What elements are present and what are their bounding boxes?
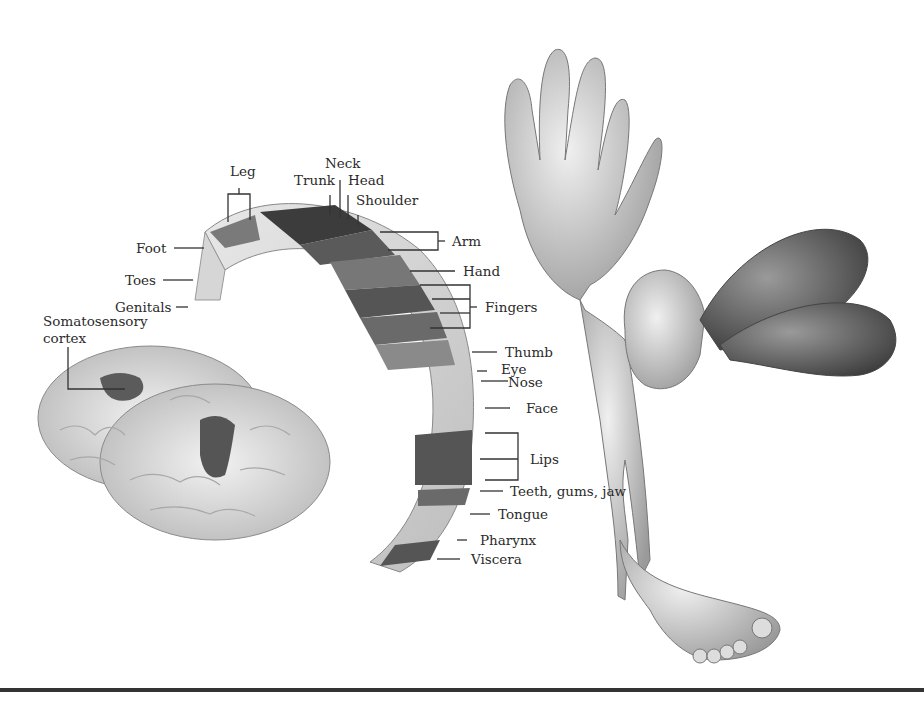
label-toes: Toes — [125, 273, 156, 288]
label-somatosensory: Somatosensory — [43, 314, 148, 329]
label-leg: Leg — [230, 164, 256, 179]
label-lips: Lips — [530, 452, 559, 467]
label-face: Face — [526, 401, 558, 416]
label-hand: Hand — [463, 264, 500, 279]
label-arm: Arm — [452, 234, 481, 249]
bottom-rule — [0, 688, 924, 692]
label-tongue: Tongue — [498, 507, 548, 522]
label-thumb: Thumb — [505, 345, 553, 360]
homunculus-hand — [505, 49, 662, 300]
label-neck: Neck — [325, 156, 361, 171]
homunculus-figure: Leg Neck Trunk Head Shoulder Foot Toes G… — [0, 0, 924, 712]
label-foot: Foot — [136, 241, 166, 256]
homunculus-lips — [700, 229, 896, 376]
label-viscera: Viscera — [471, 552, 522, 567]
diagram-graphics — [0, 0, 924, 712]
label-pharynx: Pharynx — [480, 533, 536, 548]
label-fingers: Fingers — [485, 300, 537, 315]
label-shoulder: Shoulder — [356, 193, 418, 208]
brain-illustration — [38, 346, 330, 540]
homunculus-body — [580, 270, 705, 600]
label-teeth-gums-jaw: Teeth, gums, jaw — [510, 484, 626, 499]
label-nose: Nose — [508, 375, 543, 390]
label-head: Head — [348, 173, 384, 188]
label-trunk: Trunk — [294, 173, 335, 188]
label-cortex: cortex — [43, 331, 86, 346]
